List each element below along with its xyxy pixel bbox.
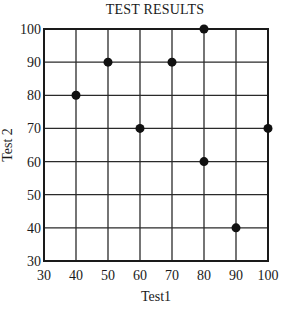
x-tick-label: 80 <box>197 268 211 283</box>
y-tick-label: 40 <box>27 221 41 236</box>
scatter-plot: 3040506070809010030405060708090100Test1T… <box>0 0 288 311</box>
x-tick-label: 40 <box>69 268 83 283</box>
data-point <box>200 25 209 34</box>
x-tick-label: 30 <box>37 268 51 283</box>
x-axis-label: Test1 <box>141 289 171 304</box>
x-tick-label: 70 <box>165 268 179 283</box>
y-tick-label: 30 <box>27 254 41 269</box>
data-point <box>72 91 81 100</box>
data-point <box>200 157 209 166</box>
data-point <box>232 223 241 232</box>
x-tick-label: 50 <box>101 268 115 283</box>
data-point <box>136 124 145 133</box>
y-tick-label: 70 <box>27 121 41 136</box>
x-tick-label: 60 <box>133 268 147 283</box>
y-tick-label: 90 <box>27 55 41 70</box>
data-point <box>104 58 113 67</box>
y-tick-label: 50 <box>27 188 41 203</box>
data-point <box>168 58 177 67</box>
x-tick-label: 90 <box>229 268 243 283</box>
x-tick-label: 100 <box>258 268 279 283</box>
data-point <box>264 124 273 133</box>
y-tick-label: 100 <box>20 22 41 37</box>
y-axis-label: Test 2 <box>0 128 15 162</box>
y-tick-label: 60 <box>27 155 41 170</box>
y-tick-label: 80 <box>27 88 41 103</box>
